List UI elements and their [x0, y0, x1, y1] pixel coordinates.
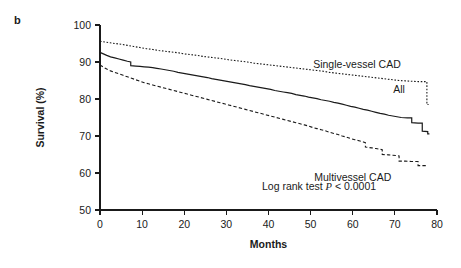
- y-tick-label-70: 70: [79, 130, 91, 142]
- curve-single-vessel-cad: [100, 41, 429, 104]
- x-tick-label-10: 10: [136, 218, 148, 230]
- y-axis-title: Survival (%): [34, 87, 46, 147]
- x-tick-label-0: 0: [97, 218, 103, 230]
- axes-group: 506070809010001020304050607080MonthsSurv…: [34, 19, 443, 250]
- survival-plot: 506070809010001020304050607080MonthsSurv…: [0, 0, 461, 268]
- x-tick-label-80: 80: [431, 218, 443, 230]
- x-tick-label-20: 20: [178, 218, 190, 230]
- x-tick-label-50: 50: [305, 218, 317, 230]
- y-tick-label-90: 90: [79, 56, 91, 68]
- x-tick-label-40: 40: [263, 218, 275, 230]
- x-tick-label-30: 30: [221, 218, 233, 230]
- series-label-all: All: [393, 83, 405, 95]
- y-tick-label-60: 60: [79, 167, 91, 179]
- survival-chart-figure: b 506070809010001020304050607080MonthsSu…: [0, 0, 461, 268]
- series-label-single-vessel-cad: Single-vessel CAD: [313, 58, 401, 70]
- x-tick-label-60: 60: [347, 218, 359, 230]
- series-labels-group: Single-vessel CADAllMultivessel CAD: [313, 58, 405, 184]
- log-rank-annotation: Log rank test P < 0.0001: [262, 180, 376, 192]
- x-tick-label-70: 70: [389, 218, 401, 230]
- x-axis-title: Months: [250, 238, 287, 250]
- curve-multivessel-cad: [100, 65, 426, 166]
- y-tick-label-100: 100: [73, 19, 91, 31]
- annotations-group: Log rank test P < 0.0001: [262, 180, 376, 192]
- y-tick-label-50: 50: [79, 204, 91, 216]
- y-tick-label-80: 80: [79, 93, 91, 105]
